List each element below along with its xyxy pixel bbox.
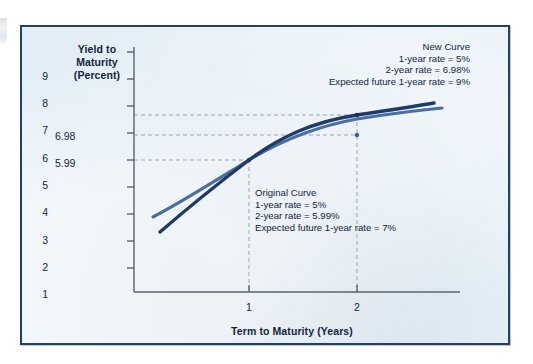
axis-lines: [134, 47, 460, 292]
marker-new-curve-2yr: [355, 113, 359, 117]
guide-lines: [134, 115, 357, 292]
marker-original-curve-2yr: [355, 133, 359, 137]
scan-edge-artifact: [0, 18, 7, 44]
x-axis-ticks: [249, 285, 357, 292]
data-point-markers: [247, 113, 359, 162]
plot-area: [22, 27, 512, 347]
y-axis-ticks: [127, 52, 134, 268]
chart-panel: Yield toMaturity(Percent) Term to Maturi…: [20, 25, 510, 345]
series-new-curve: [160, 103, 434, 232]
marker-crossover-1yr-5pct: [247, 158, 251, 162]
